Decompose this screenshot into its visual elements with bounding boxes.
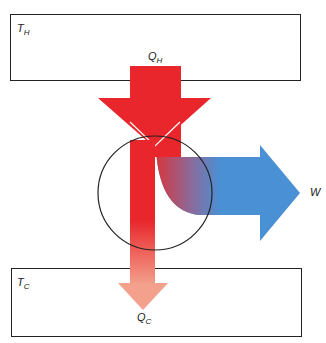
cold-reservoir-box bbox=[12, 269, 302, 337]
work-arrow-transition bbox=[155, 148, 225, 215]
heat-out-stem bbox=[130, 140, 155, 285]
cold-reservoir-label: TC bbox=[17, 276, 30, 291]
heat-in-label: QH bbox=[148, 50, 162, 65]
hot-reservoir-label: TH bbox=[17, 22, 30, 37]
work-label: W bbox=[310, 186, 320, 198]
heat-engine-diagram bbox=[0, 0, 326, 343]
heat-out-label: QC bbox=[137, 311, 151, 326]
